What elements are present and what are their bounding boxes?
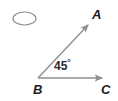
vertex-label-a: A [92, 8, 101, 21]
vertex-label-c: C [101, 83, 110, 96]
vertex-label-b: B [33, 83, 42, 96]
answer-bubble-ellipse [13, 12, 36, 25]
degree-symbol-icon: ° [67, 57, 71, 67]
geometry-figure: A B C 45° [0, 0, 118, 101]
angle-measure-label: 45° [54, 58, 71, 73]
angle-measure-value: 45 [54, 59, 67, 73]
